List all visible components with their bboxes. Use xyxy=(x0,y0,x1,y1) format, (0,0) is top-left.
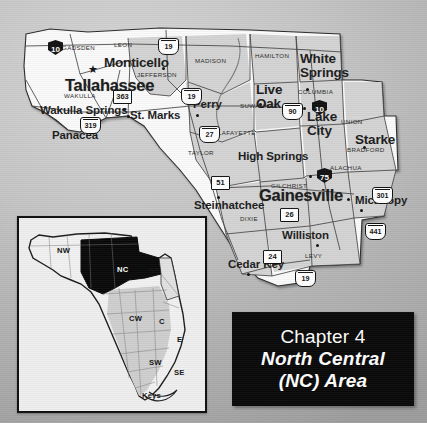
city-label-williston: Williston xyxy=(282,230,329,242)
chapter-region-name: North Central xyxy=(261,348,385,370)
city-label-st-marks: St. Marks xyxy=(130,110,180,122)
city-label-gainesville: Gainesville xyxy=(259,187,343,204)
us-19-shield-levy: 19 xyxy=(295,270,316,287)
state-363-shield: 363 xyxy=(113,90,132,104)
state-capital-star: ★ xyxy=(88,64,98,75)
county-label-union: UNION xyxy=(341,119,363,125)
city-label-starke: Starke xyxy=(355,133,395,147)
map-page: GADSDEN LEON JEFFERSON MADISON HAMILTON … xyxy=(0,0,427,423)
us-319-shield: 319 xyxy=(80,117,101,134)
city-label-white-springs: WhiteSprings xyxy=(300,52,349,79)
region-label-cw: CW xyxy=(129,314,142,323)
county-label-levy: LEVY xyxy=(305,253,322,259)
chapter-number-text: Chapter 4 xyxy=(280,326,365,348)
chapter-region-abbrev: (NC) Area xyxy=(279,370,368,392)
state-24-shield: 24 xyxy=(263,250,282,264)
us-441-shield: 441 xyxy=(365,223,386,240)
city-dot-monticello xyxy=(162,67,165,70)
county-label-dixie: DIXIE xyxy=(240,216,258,222)
county-label-madison: MADISON xyxy=(195,58,226,64)
city-dot-micanopy xyxy=(360,209,363,212)
county-label-gadsden: GADSDEN xyxy=(62,45,95,51)
city-label-monticello: Monticello xyxy=(104,56,169,70)
city-label-tallahassee: Tallahassee xyxy=(65,77,154,94)
region-label-keys: Keys xyxy=(142,391,161,400)
city-dot-wakulla-springs xyxy=(123,108,126,111)
city-label-steinhatchee: Steinhatchee xyxy=(194,200,264,212)
us-19-shield-north: 19 xyxy=(158,38,179,55)
florida-region-inset: NW NC NE CW C E SW SE Keys xyxy=(17,216,207,413)
region-label-nw: NW xyxy=(57,246,70,255)
region-label-e: E xyxy=(177,335,182,344)
city-dot-high-springs xyxy=(309,175,312,178)
city-label-high-springs: High Springs xyxy=(238,151,308,163)
city-dot-white-springs xyxy=(306,88,309,91)
region-label-c: C xyxy=(159,317,165,326)
us-90-shield: 90 xyxy=(282,103,303,120)
city-dot-steinhatchee xyxy=(217,196,220,199)
county-label-columbia: COLUMBIA xyxy=(298,89,333,95)
county-label-leon: LEON xyxy=(114,42,132,48)
county-label-hamilton: HAMILTON xyxy=(255,53,289,59)
city-dot-cedar-key xyxy=(247,273,250,276)
city-dot-perry xyxy=(196,114,199,117)
region-label-nc: NC xyxy=(117,265,128,274)
region-label-ne: NE xyxy=(149,266,160,275)
city-dot-lake-city xyxy=(303,107,306,110)
us-19-shield-perry: 19 xyxy=(181,88,202,105)
state-26-shield: 26 xyxy=(280,208,299,222)
region-label-sw: SW xyxy=(149,358,162,367)
county-label-lafayette: LAFAYETTE xyxy=(218,130,256,136)
state-51-shield: 51 xyxy=(211,176,230,190)
city-label-wakulla-springs: Wakulla Springs xyxy=(40,105,128,117)
us-27-shield: 27 xyxy=(199,126,220,143)
city-dot-starke xyxy=(363,146,366,149)
county-label-taylor: TAYLOR xyxy=(188,150,214,156)
chapter-title-plate: Chapter 4 North Central (NC) Area xyxy=(232,312,414,406)
city-dot-williston xyxy=(316,244,319,247)
county-label-alachua: ALACHUA xyxy=(330,165,362,171)
city-label-lake-city: LakeCity xyxy=(307,110,337,137)
us-301-shield: 301 xyxy=(372,187,393,204)
inset-map-geometry xyxy=(19,218,201,407)
region-label-se: SE xyxy=(174,368,185,377)
city-dot-gainesville xyxy=(347,198,350,201)
city-dot-live-oak xyxy=(259,103,262,106)
